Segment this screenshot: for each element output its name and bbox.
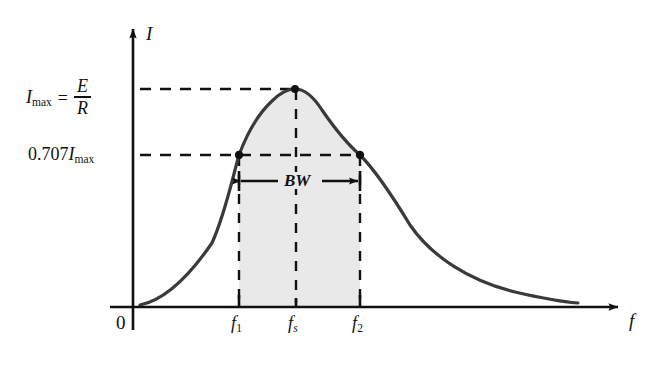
- tick-label-f1: f1: [231, 314, 242, 334]
- tick-label-f2-sub: 2: [357, 322, 363, 334]
- f2-half-power-point: [356, 151, 364, 159]
- e-over-r-fraction: E R: [74, 77, 91, 117]
- tick-label-f1-sub: 1: [236, 322, 242, 334]
- half-power-coefficient: 0.707: [28, 144, 69, 164]
- half-power-subscript: max: [75, 153, 95, 165]
- half-power-label: 0.707Imax: [28, 145, 94, 165]
- x-axis-label: f: [629, 311, 634, 330]
- y-axis-label: I: [146, 24, 152, 43]
- figure-canvas: [0, 0, 662, 370]
- equals-sign: =: [57, 89, 69, 107]
- imax-symbol: Imax: [26, 88, 52, 108]
- tick-label-f2: f2: [352, 314, 363, 334]
- fraction-numerator: E: [74, 77, 91, 96]
- resonance-curve-figure: I f 0 Imax = E R 0.707Imax BW f1 fs f2: [0, 0, 662, 370]
- f1-half-power-point: [235, 151, 243, 159]
- bandwidth-label: BW: [281, 172, 313, 189]
- origin-label: 0: [116, 313, 126, 332]
- fraction-denominator: R: [74, 98, 91, 117]
- fs-peak-point: [291, 85, 299, 93]
- tick-label-fs: fs: [288, 314, 298, 334]
- imax-equation-label: Imax = E R: [26, 78, 91, 118]
- tick-label-fs-sub: s: [293, 322, 297, 334]
